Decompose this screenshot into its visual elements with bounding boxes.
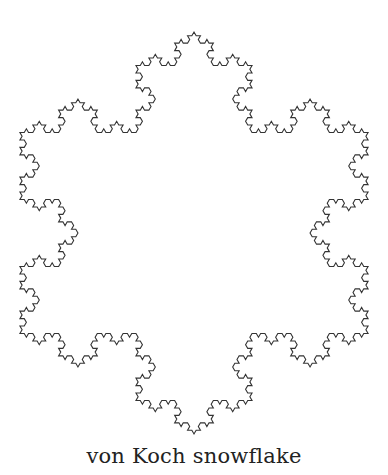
figure-caption: von Koch snowflake <box>0 444 388 468</box>
koch-snowflake-outline <box>20 32 368 434</box>
koch-snowflake-figure <box>0 0 388 440</box>
